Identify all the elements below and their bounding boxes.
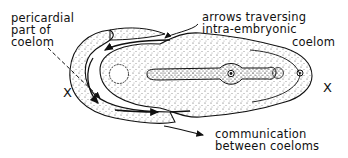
cloacal-membrane (273, 68, 284, 79)
label-arrows-coelom: coelom (292, 36, 335, 48)
buccopharyngeal-membrane (110, 65, 129, 84)
section-marker-right: X (323, 80, 332, 95)
section-marker-left: X (63, 85, 72, 100)
label-pericardial-coelom: pericardial part of coelom (11, 12, 74, 48)
label-communication: communication between coeloms (215, 128, 319, 152)
label-arrows-traversing: arrows traversing intra-embryonic (202, 11, 306, 35)
embryo-coelom-diagram: pericardial part of coelom arrows traver… (0, 0, 348, 158)
leader-communication (164, 126, 203, 135)
